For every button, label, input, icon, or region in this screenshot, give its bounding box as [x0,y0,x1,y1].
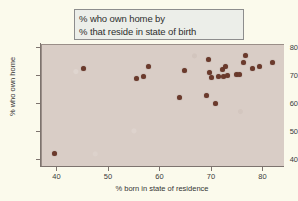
scatter-point [257,64,262,69]
scatter-point [223,64,228,69]
scatter-point [213,101,218,106]
scatter-point [177,95,182,100]
chart-title-line-1: % who own home by [79,12,240,25]
scatter-point [241,60,246,65]
y-tick-label: 60 [264,99,298,108]
scatter-point [206,57,211,62]
y-axis-title: % who own home [8,37,17,137]
plot-background-texture [42,45,284,166]
scatter-point [225,73,230,78]
x-tick-mark [56,167,57,171]
scatter-point [146,64,151,69]
scatter-chart-figure: % who own home by % that reside in state… [0,0,298,201]
x-axis-title: % born in state of residence [41,184,283,193]
y-tick-label: 70 [264,71,298,80]
scatter-point [141,74,146,79]
plot-area [41,44,284,166]
scatter-point [270,60,275,65]
scatter-point [209,75,214,80]
x-tick-mark [262,167,263,171]
x-tick-label: 80 [258,172,266,181]
y-tick-mark [36,103,40,104]
x-tick-label: 60 [155,172,163,181]
scatter-point [237,72,242,77]
scatter-point [52,151,57,156]
y-tick-mark [36,131,40,132]
x-tick-label: 50 [104,172,112,181]
y-tick-label: 80 [264,43,298,52]
x-tick-mark [211,167,212,171]
y-tick-mark [36,47,40,48]
x-tick-mark [108,167,109,171]
x-tick-mark [159,167,160,171]
y-tick-mark [36,159,40,160]
scatter-point [207,70,212,75]
scatter-point [243,53,248,58]
y-tick-label: 50 [264,127,298,136]
chart-title-line-2: % that reside in state of birth [79,25,240,38]
scatter-point [182,68,187,73]
y-tick-mark [36,75,40,76]
y-tick-label: 40 [264,155,298,164]
scatter-point [81,66,86,71]
scatter-point [204,93,209,98]
x-axis-line [40,166,284,167]
chart-title-box: % who own home by % that reside in state… [74,9,244,40]
x-tick-label: 70 [207,172,215,181]
x-tick-label: 40 [52,172,60,181]
scatter-point [134,76,139,81]
scatter-point [250,66,255,71]
